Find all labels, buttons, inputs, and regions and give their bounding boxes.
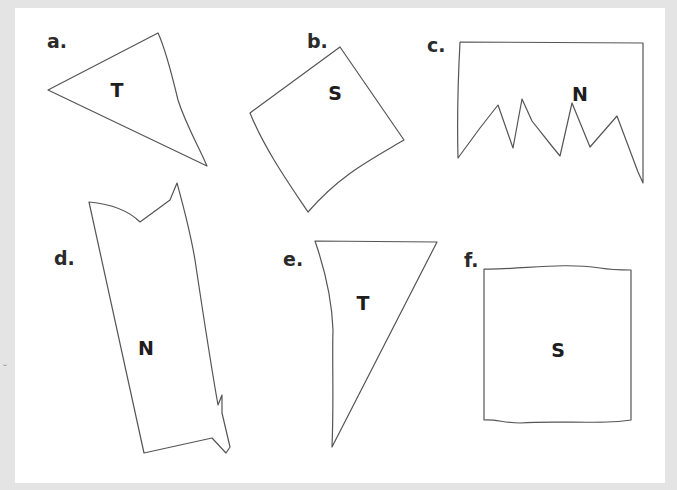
shape-b-square-outline [250,47,404,212]
shape-e-triangle-outline [315,241,437,447]
shape-letter-a: T [111,81,124,100]
item-label-e: e. [283,250,303,269]
shape-a-triangle-outline [48,33,207,166]
item-label-c: c. [427,36,445,55]
item-label-d: d. [54,249,75,268]
shape-letter-b: S [328,84,342,103]
item-label-f: f. [464,251,478,270]
shape-letter-d: N [138,339,154,358]
item-label-b: b. [307,32,328,51]
item-label-a: a. [47,32,67,51]
shape-letter-f: S [551,341,565,360]
shape-d-jagged-rectangle-outline [89,183,230,453]
shape-letter-e: T [357,294,370,313]
shapes-canvas [0,0,677,490]
shape-letter-c: N [572,85,588,104]
shape-c-jagged-rectangle-outline [458,42,643,183]
